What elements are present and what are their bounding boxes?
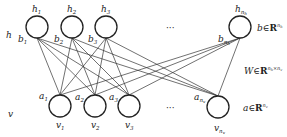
hidden-layer-label: h <box>6 30 12 40</box>
visible-bias-param: a∈Rnv <box>243 102 268 113</box>
visible-ellipsis: ··· <box>166 103 175 113</box>
svg-text:anv: anv <box>194 92 206 104</box>
weight-edges <box>37 38 240 96</box>
svg-text:a1: a1 <box>39 91 48 102</box>
svg-text:vnv: vnv <box>214 123 226 135</box>
hidden-node-3: h3 b3 <box>88 4 117 45</box>
svg-text:a2: a2 <box>75 92 84 103</box>
svg-text:v2: v2 <box>91 120 100 131</box>
svg-text:b3: b3 <box>88 34 98 45</box>
svg-text:h2: h2 <box>67 4 77 15</box>
visible-node-nv: anv vnv <box>194 92 229 135</box>
svg-text:b2: b2 <box>54 34 64 45</box>
svg-text:hnh: hnh <box>235 4 247 16</box>
visible-layer-label: v <box>8 109 13 119</box>
rbm-diagram: h v h1 b1 h2 b2 h3 b3 ··· hnh bnh b∈Rnh … <box>0 0 287 137</box>
hidden-node-2: h2 b2 <box>54 4 83 45</box>
visible-node-3: a3 v3 <box>109 92 140 131</box>
svg-text:W∈Rnh×nv: W∈Rnh×nv <box>244 65 282 76</box>
hidden-node-1: h1 b1 <box>18 4 48 45</box>
hidden-bias-param: b∈Rnh <box>257 22 282 33</box>
hidden-ellipsis: ··· <box>166 23 175 33</box>
svg-text:a3: a3 <box>109 92 118 103</box>
weight-param: W∈Rnh×nv <box>244 65 282 76</box>
svg-text:v1: v1 <box>56 120 65 131</box>
svg-text:a∈Rnv: a∈Rnv <box>243 102 268 113</box>
visible-node-1: a1 v1 <box>39 91 71 131</box>
svg-text:b∈Rnh: b∈Rnh <box>257 22 282 33</box>
svg-text:h3: h3 <box>101 4 111 15</box>
svg-text:v3: v3 <box>125 120 134 131</box>
svg-text:h1: h1 <box>32 4 41 15</box>
svg-text:b1: b1 <box>18 34 27 45</box>
visible-node-2: a2 v2 <box>75 92 106 131</box>
